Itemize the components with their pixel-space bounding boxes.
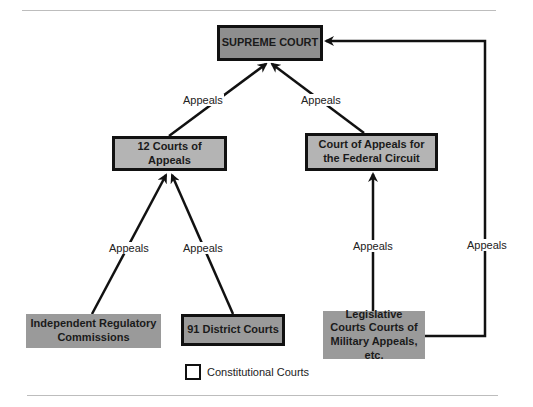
edge-label-appeals: Appeals xyxy=(466,239,508,251)
edge-label-appeals: Appeals xyxy=(108,242,150,254)
node-label: Legislative Courts Courts of Military Ap… xyxy=(329,308,419,363)
node-label: Independent Regulatory Commissions xyxy=(30,317,157,345)
edge-label-appeals: Appeals xyxy=(182,242,224,254)
legend-swatch-icon xyxy=(185,364,201,380)
edge-label-appeals: Appeals xyxy=(300,94,342,106)
legend: Constitutional Courts xyxy=(185,364,309,380)
node-independent-regulatory-commissions: Independent Regulatory Commissions xyxy=(26,314,161,348)
node-federal-circuit: Court of Appeals for the Federal Circuit xyxy=(305,133,438,171)
legend-label: Constitutional Courts xyxy=(207,366,309,378)
edge-label-appeals: Appeals xyxy=(352,240,394,252)
arrow-legislative-to-supreme xyxy=(326,41,485,336)
node-label: SUPREME COURT xyxy=(222,36,319,50)
node-label: 91 District Courts xyxy=(187,323,279,337)
node-label: 12 Courts of Appeals xyxy=(115,140,224,168)
node-12-courts-of-appeals: 12 Courts of Appeals xyxy=(112,136,227,171)
node-91-district-courts: 91 District Courts xyxy=(181,314,285,346)
node-label: Court of Appeals for the Federal Circuit xyxy=(314,138,429,166)
edge-label-appeals: Appeals xyxy=(182,94,224,106)
node-legislative-courts: Legislative Courts Courts of Military Ap… xyxy=(323,311,425,359)
node-supreme-court: SUPREME COURT xyxy=(217,25,323,61)
